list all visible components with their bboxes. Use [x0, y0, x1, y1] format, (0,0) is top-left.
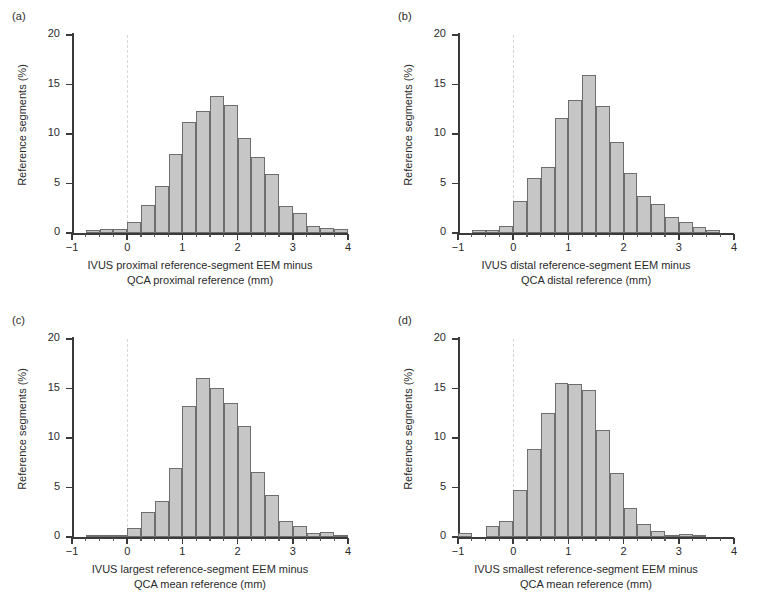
histogram-bar [679, 534, 693, 537]
histogram-bar [555, 383, 569, 537]
histogram-bar [224, 105, 238, 233]
x-tick-minor [637, 234, 638, 237]
histogram-bar [210, 96, 224, 233]
histogram-bar [238, 138, 252, 233]
x-tick-minor [706, 538, 707, 541]
x-tick-minor [334, 234, 335, 237]
x-tick-minor [223, 538, 224, 541]
y-tick-label: 20 [20, 27, 60, 39]
histogram-bars [72, 339, 348, 537]
y-tick-label: 15 [20, 381, 60, 393]
x-tick [292, 234, 294, 240]
histogram-bar [155, 186, 169, 233]
x-tick-label: 3 [664, 545, 694, 557]
x-tick-minor [540, 234, 541, 237]
panel-c: (c)Reference segments (%)05101520−101234… [0, 304, 386, 608]
y-tick-label: 5 [20, 480, 60, 492]
histogram-bar [113, 229, 127, 233]
x-tick-minor [320, 234, 321, 237]
histogram-bar [265, 174, 279, 233]
y-axis-label: Reference segments (%) [16, 174, 30, 344]
x-tick-minor [334, 538, 335, 541]
x-tick-label: 3 [278, 241, 308, 253]
histogram-bar [293, 526, 307, 537]
x-axis-caption-line1: IVUS proximal reference-segment EEM minu… [88, 259, 313, 271]
histogram-bar [637, 524, 651, 537]
x-tick-minor [265, 234, 266, 237]
histogram-bars [72, 35, 348, 233]
x-tick-minor [720, 538, 721, 541]
x-tick-minor [320, 538, 321, 541]
histogram-bar [224, 403, 238, 537]
histogram-bars [458, 35, 734, 233]
histogram-bar [513, 490, 527, 537]
histogram-bar [527, 449, 541, 537]
x-tick-label: 2 [609, 545, 639, 557]
x-tick [126, 538, 128, 544]
x-tick-minor [196, 538, 197, 541]
histogram-bar [307, 533, 321, 537]
histogram-bar [210, 388, 224, 537]
x-tick-minor [306, 538, 307, 541]
histogram-bar [665, 535, 679, 537]
y-axis-label: Reference segments (%) [402, 174, 416, 344]
histogram-bar [155, 501, 169, 537]
x-tick [512, 538, 514, 544]
histogram-bar [100, 535, 114, 537]
x-tick-minor [595, 538, 596, 541]
x-tick [71, 234, 73, 240]
histogram-bar [182, 406, 196, 537]
x-tick-minor [554, 234, 555, 237]
histogram-bar [334, 535, 348, 537]
x-tick-minor [595, 234, 596, 237]
x-tick-minor [223, 234, 224, 237]
histogram-bar [169, 468, 183, 537]
x-tick-minor [278, 538, 279, 541]
x-tick-minor [154, 538, 155, 541]
x-tick [237, 538, 239, 544]
x-tick [623, 538, 625, 544]
x-axis-caption-line2: QCA mean reference (mm) [426, 577, 746, 592]
y-tick-label: 20 [20, 331, 60, 343]
x-tick-minor [499, 538, 500, 541]
x-tick-minor [485, 538, 486, 541]
histogram-bar [196, 111, 210, 233]
histogram-bar [541, 413, 555, 537]
histogram-bar [610, 142, 624, 233]
y-tick-label: 5 [406, 480, 446, 492]
x-tick-minor [113, 538, 114, 541]
x-tick-minor [140, 538, 141, 541]
histogram-bar [251, 472, 265, 537]
x-tick [126, 234, 128, 240]
x-tick-label: 1 [167, 545, 197, 557]
x-tick-minor [278, 234, 279, 237]
y-tick-label: 10 [406, 126, 446, 138]
x-tick [623, 234, 625, 240]
histogram-bar [513, 201, 527, 233]
histogram-bar [499, 226, 513, 233]
x-tick-label: 1 [553, 241, 583, 253]
x-tick [457, 234, 459, 240]
x-tick [733, 538, 735, 544]
y-tick-label: 15 [406, 77, 446, 89]
y-tick-label: 10 [20, 126, 60, 138]
histogram-bar [679, 222, 693, 233]
x-tick-minor [651, 234, 652, 237]
histogram-bar [472, 230, 486, 233]
x-tick-label: −1 [443, 545, 473, 557]
histogram-bar [279, 206, 293, 233]
x-tick-label: 4 [719, 241, 749, 253]
x-tick-label: −1 [57, 241, 87, 253]
x-tick-minor [720, 234, 721, 237]
x-tick-minor [471, 538, 472, 541]
x-tick [678, 234, 680, 240]
x-tick [512, 234, 514, 240]
x-tick-label: 4 [333, 545, 363, 557]
y-tick-label: 0 [406, 529, 446, 541]
histogram-bar [458, 533, 472, 537]
histogram-bar [307, 226, 321, 233]
x-tick-label: 0 [498, 241, 528, 253]
histogram-bar [568, 100, 582, 233]
x-axis-caption: IVUS proximal reference-segment EEM minu… [40, 258, 360, 288]
x-tick-minor [265, 538, 266, 541]
